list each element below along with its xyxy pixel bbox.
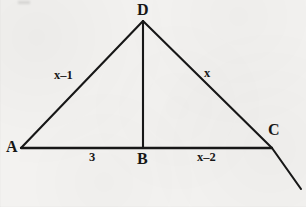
segment-d-c-extended — [272, 148, 301, 189]
vertex-label-b: B — [137, 151, 148, 167]
segment-label-ad: x–1 — [54, 69, 73, 82]
segment-a-d — [21, 21, 143, 148]
segment-d-c — [143, 21, 272, 148]
segment-label-dc: x — [204, 67, 210, 80]
diagram-canvas: D A B C x–1 x 3 x–2 — [0, 0, 306, 207]
triangle-figure — [0, 0, 306, 207]
vertex-label-a: A — [6, 139, 18, 155]
segment-label-ab: 3 — [89, 151, 95, 164]
vertex-label-c: C — [268, 122, 280, 138]
vertex-label-d: D — [137, 2, 149, 18]
segment-label-bc: x–2 — [197, 151, 216, 164]
